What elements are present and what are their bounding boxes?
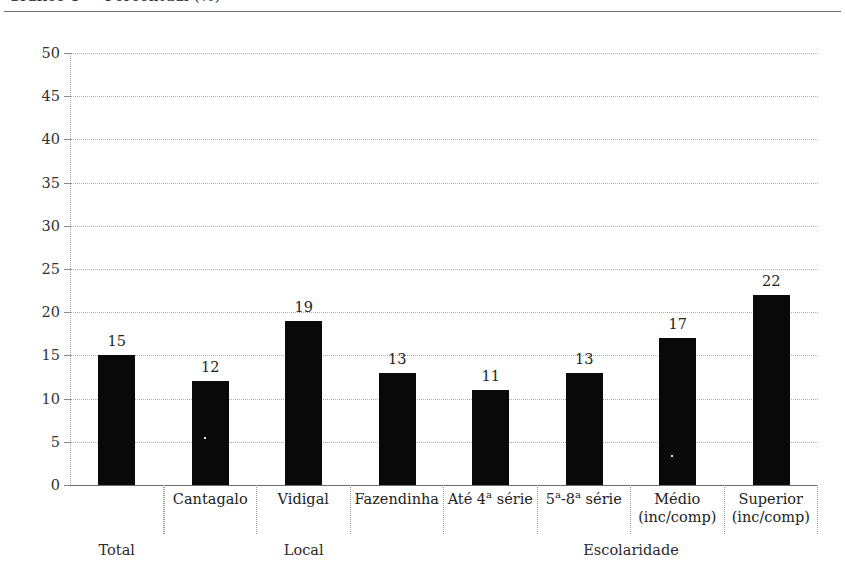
bar: [659, 338, 696, 485]
y-axis-tick: [64, 269, 71, 270]
gridline: [70, 96, 818, 97]
y-axis-tick-label: 35: [14, 175, 60, 191]
page-title: Gráfico 1 — Percentual (%): [8, 0, 220, 5]
y-axis-tick: [64, 312, 71, 313]
plot-area: 1512191311131722: [70, 53, 818, 485]
y-axis-tick-label: 45: [14, 88, 60, 104]
category-label: Vidigal: [278, 490, 329, 508]
bar-value-label: 11: [461, 368, 521, 384]
category-cell: Cantagalo: [164, 485, 258, 534]
y-axis-tick: [64, 183, 71, 184]
bar: [566, 373, 603, 485]
gridline: [70, 139, 818, 140]
bar: [753, 295, 790, 485]
category-label: Até 4a série: [448, 490, 533, 508]
bar-value-label: 17: [648, 316, 708, 332]
bar: [192, 381, 229, 485]
category-label: Fazendinha: [354, 490, 439, 508]
bar-value-label: 15: [87, 333, 147, 349]
y-axis-tick-label: 30: [14, 218, 60, 234]
y-axis-tick-label: 50: [14, 45, 60, 61]
bar-value-label: 13: [554, 351, 614, 367]
gridline: [70, 183, 818, 184]
y-axis-tick-label: 0: [14, 477, 60, 493]
category-label: Cantagalo: [173, 490, 248, 508]
gridline: [70, 269, 818, 270]
category-cell: Superior(inc/comp): [725, 485, 819, 534]
y-axis-tick-label: 25: [14, 261, 60, 277]
y-axis-tick-label: 15: [14, 347, 60, 363]
bar-chart: 1512191311131722 CantagaloVidigalFazendi…: [0, 14, 845, 578]
y-axis-tick-label: 40: [14, 131, 60, 147]
y-axis-tick: [64, 53, 71, 54]
category-cell: 5a-8a série: [538, 485, 632, 534]
category-cell: Vidigal: [257, 485, 351, 534]
y-axis-tick-label: 5: [14, 434, 60, 450]
bar: [98, 355, 135, 485]
group-label: Local: [164, 542, 445, 558]
gridline: [70, 355, 818, 356]
bar: [379, 373, 416, 485]
category-label: Superior(inc/comp): [732, 490, 810, 526]
bar-value-label: 19: [274, 299, 334, 315]
y-axis-tick: [64, 399, 71, 400]
bar-value-label: 22: [741, 273, 801, 289]
y-axis-tick-label: 20: [14, 304, 60, 320]
scan-artifact: [671, 455, 673, 457]
bar-value-label: 13: [367, 351, 427, 367]
gridline: [70, 442, 818, 443]
y-axis-tick: [64, 96, 71, 97]
gridline: [70, 399, 818, 400]
category-label-band: CantagaloVidigalFazendinhaAté 4a série5a…: [70, 485, 818, 534]
y-axis-tick: [64, 355, 71, 356]
category-cell: Até 4a série: [444, 485, 538, 534]
gridline: [70, 312, 818, 313]
category-cell: Médio(inc/comp): [631, 485, 725, 534]
category-label: 5a-8a série: [546, 490, 622, 508]
title-divider-rule: [4, 11, 841, 12]
y-axis-tick: [64, 226, 71, 227]
group-label: Escolaridade: [444, 542, 818, 558]
y-axis-tick: [64, 139, 71, 140]
scan-artifact: [204, 437, 206, 439]
page-title-strip: Gráfico 1 — Percentual (%): [0, 0, 845, 14]
category-cell-empty: [70, 485, 164, 534]
bar: [285, 321, 322, 485]
group-label: Total: [70, 542, 164, 558]
gridline: [70, 226, 818, 227]
bar: [472, 390, 509, 485]
bar-value-label: 12: [180, 359, 240, 375]
gridline: [70, 53, 818, 54]
y-axis-tick: [64, 442, 71, 443]
category-label: Médio(inc/comp): [638, 490, 716, 526]
y-axis-tick-label: 10: [14, 391, 60, 407]
category-cell: Fazendinha: [351, 485, 445, 534]
